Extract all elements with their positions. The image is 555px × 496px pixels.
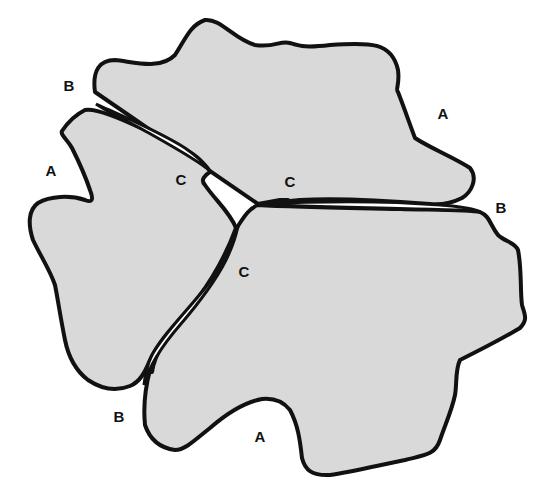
label-c-left: C: [176, 171, 187, 188]
label-a-lower: A: [255, 428, 266, 445]
label-b-lower: B: [114, 408, 125, 425]
label-a-upper-right: A: [438, 105, 449, 122]
lobed-diagram: B A A C C B C B A: [0, 0, 555, 496]
label-a-left: A: [46, 162, 57, 179]
label-c-right: C: [285, 173, 296, 190]
label-b-right: B: [496, 199, 507, 216]
label-b-upper-left: B: [64, 77, 75, 94]
label-c-lower: C: [239, 263, 250, 280]
